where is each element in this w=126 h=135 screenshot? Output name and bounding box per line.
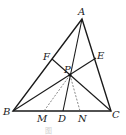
segment-pn (70, 75, 80, 111)
triangle-abc (13, 19, 111, 111)
label-b: B (2, 106, 10, 117)
figure-caption: 图 (45, 127, 52, 135)
label-p: P (63, 64, 71, 75)
label-f: F (42, 51, 51, 62)
label-m: M (36, 113, 48, 124)
segment-be (13, 58, 96, 111)
label-a: A (77, 6, 85, 17)
label-e: E (96, 50, 105, 61)
segment-pm (44, 75, 70, 111)
label-n: N (77, 113, 88, 124)
triangle-diagram: A B C F E P M D N 图 (0, 0, 126, 135)
label-c: C (112, 109, 120, 120)
label-d: D (57, 113, 66, 124)
